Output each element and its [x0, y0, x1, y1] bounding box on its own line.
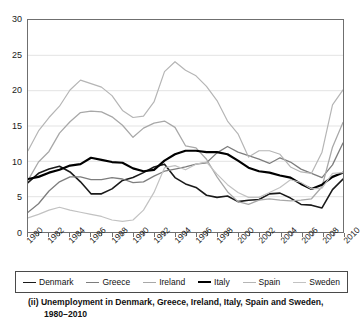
legend-item-spain[interactable]: Spain: [243, 278, 281, 287]
figure-caption: (ii) Unemployment in Denmark, Greece, Ir…: [28, 297, 348, 320]
chart-lines-svg: [28, 20, 343, 232]
y-axis: 051015202530: [0, 0, 27, 252]
caption-line-1: (ii) Unemployment in Denmark, Greece, Ir…: [28, 297, 323, 307]
legend-item-ireland[interactable]: Ireland: [143, 278, 185, 287]
legend-item-sweden[interactable]: Sweden: [293, 278, 340, 287]
x-tick-label-2010: 2010: [342, 226, 362, 246]
legend-label-denmark: Denmark: [39, 278, 73, 287]
legend-swatch-icon-greece: [86, 282, 99, 283]
legend-label-spain: Spain: [259, 278, 281, 287]
legend-label-greece: Greece: [102, 278, 130, 287]
x-axis: 1980198219841986198819901992199419961998…: [27, 233, 344, 266]
legend-swatch-icon-spain: [243, 282, 256, 283]
legend-label-sweden: Sweden: [309, 278, 340, 287]
y-tick-label-20: 20: [12, 86, 22, 95]
legend-item-denmark[interactable]: Denmark: [23, 278, 73, 287]
legend-label-ireland: Ireland: [159, 278, 185, 287]
legend-label-italy: Italy: [214, 278, 230, 287]
legend-swatch-icon-ireland: [143, 282, 156, 283]
legend-swatch-icon-denmark: [23, 282, 36, 283]
legend-item-italy[interactable]: Italy: [198, 278, 230, 287]
y-tick-label-30: 30: [12, 15, 22, 24]
y-tick-label-10: 10: [12, 157, 22, 166]
unemployment-line-chart-figure: 051015202530 198019821984198619881990199…: [0, 0, 363, 325]
chart-legend: DenmarkGreeceIrelandItalySpainSweden: [15, 271, 348, 293]
series-line-denmark: [28, 164, 343, 208]
y-tick-label-5: 5: [17, 193, 22, 202]
plot-area: [27, 19, 344, 233]
legend-item-greece[interactable]: Greece: [86, 278, 130, 287]
series-line-sweden: [28, 162, 343, 221]
caption-line-2: 1980–2010: [28, 309, 348, 321]
y-tick-label-25: 25: [12, 50, 22, 59]
y-tick-label-15: 15: [12, 122, 22, 131]
legend-swatch-icon-italy: [198, 281, 211, 283]
series-line-ireland: [28, 111, 343, 204]
y-tick-label-0: 0: [17, 229, 22, 238]
legend-swatch-icon-sweden: [293, 282, 306, 283]
